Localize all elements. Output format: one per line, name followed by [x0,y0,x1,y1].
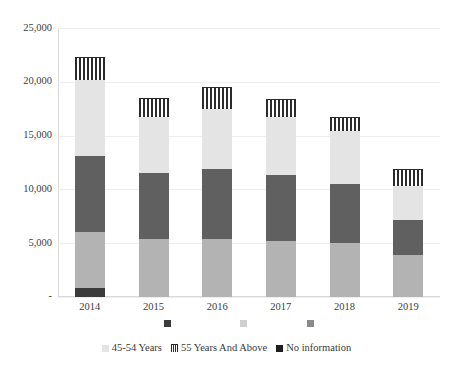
bar-segment-2017-35-44-years[interactable] [266,175,296,241]
bar-segment-2018-35-44-years[interactable] [330,184,360,243]
bar-segment-2015-45-54-years[interactable] [139,117,169,173]
bar-segment-2014-35-44-years[interactable] [75,156,105,232]
bar-2014[interactable] [75,57,105,297]
bar-segment-2017-55-years-and-above[interactable] [266,99,296,117]
legend-label-45-54: 45-54 Years [112,342,162,354]
partial-legend-swatch-icon-3 [307,320,314,327]
legend-label-55-above: 55 Years And Above [181,342,267,354]
x-tick-2015: 2015 [124,301,184,312]
legend-label-no-information: No information [286,342,351,354]
partial-legend-swatch-icon-2 [240,320,247,327]
bar-segment-2017-25-34-years[interactable] [266,241,296,297]
plot-area [58,28,440,297]
gridline-20000 [58,82,440,83]
bar-segment-2015-55-years-and-above[interactable] [139,98,169,117]
bar-segment-2019-35-44-years[interactable] [393,220,423,256]
legend-item-45-54[interactable]: 45-54 Years [102,342,162,354]
bar-segment-2014-55-years-and-above[interactable] [75,57,105,80]
bar-segment-2014-no-information[interactable] [75,288,105,297]
bar-segment-2014-25-34-years[interactable] [75,232,105,288]
y-tick-25000: 25,000 [4,23,52,34]
y-tick-20000: 20,000 [4,76,52,87]
x-tick-2019: 2019 [378,301,438,312]
bar-segment-2018-55-years-and-above[interactable] [330,117,360,131]
legend-item-55-above[interactable]: 55 Years And Above [171,342,267,354]
legend-swatch-icon-no-information [276,345,283,352]
x-tick-2014: 2014 [60,301,120,312]
legend-swatch-icon-55-above [171,344,178,352]
bar-2018[interactable] [330,117,360,297]
bar-segment-2015-25-34-years[interactable] [139,239,169,297]
gridline-25000 [58,28,440,29]
bar-segment-2019-25-34-years[interactable] [393,255,423,297]
legend-swatch-icon-45-54 [102,345,109,352]
y-tick-10000: 10,000 [4,184,52,195]
bar-segment-2017-45-54-years[interactable] [266,117,296,175]
bar-segment-2016-35-44-years[interactable] [202,169,232,239]
x-tick-2016: 2016 [187,301,247,312]
x-tick-2018: 2018 [315,301,375,312]
stacked-bar-chart: 25,000 20,000 15,000 10,000 5,000 - 2014… [0,0,453,373]
y-tick-5000: 5,000 [4,238,52,249]
bar-2015[interactable] [139,98,169,297]
partial-legend-markers [0,318,453,330]
y-tick-0: - [4,291,52,302]
x-tick-2017: 2017 [251,301,311,312]
y-tick-15000: 15,000 [4,130,52,141]
bar-segment-2018-25-34-years[interactable] [330,243,360,297]
partial-legend-swatch-icon-1 [164,320,171,327]
bar-segment-2015-35-44-years[interactable] [139,173,169,239]
gridline-15000 [58,136,440,137]
bar-segment-2018-45-54-years[interactable] [330,131,360,184]
bar-segment-2019-55-years-and-above[interactable] [393,169,423,186]
bar-2016[interactable] [202,87,232,297]
bar-segment-2016-55-years-and-above[interactable] [202,87,232,109]
bar-segment-2016-25-34-years[interactable] [202,239,232,297]
gridline-10000 [58,189,440,190]
gridline-5000 [58,243,440,244]
bar-segment-2016-45-54-years[interactable] [202,109,232,169]
bar-2019[interactable] [393,169,423,297]
bar-segment-2019-45-54-years[interactable] [393,186,423,219]
legend-item-no-information[interactable]: No information [276,342,351,354]
chart-legend: 45-54 Years 55 Years And Above No inform… [0,342,453,354]
bar-segment-2014-45-54-years[interactable] [75,80,105,156]
bar-2017[interactable] [266,99,296,297]
gridline-0 [58,297,440,298]
